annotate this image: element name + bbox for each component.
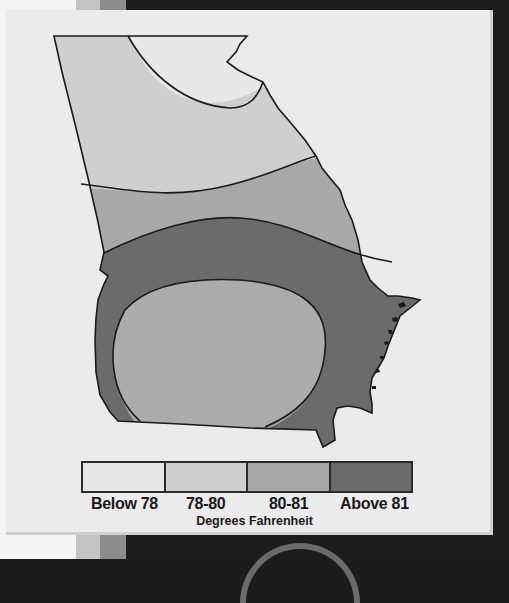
legend-label-80-81: 80-81 [269, 495, 308, 513]
legend-swatch-above-81 [331, 463, 412, 491]
legend-bar [81, 461, 413, 493]
legend-label-above-81: Above 81 [340, 495, 409, 513]
legend-swatch-80-81 [248, 463, 331, 491]
legend-units: Degrees Fahrenheit [0, 514, 509, 528]
legend-swatch-below-78 [83, 463, 166, 491]
legend-swatch-78-80 [166, 463, 249, 491]
legend-label-78-80: 78-80 [186, 495, 225, 513]
zone-80-81-oval [113, 280, 325, 430]
legend-label-below-78: Below 78 [91, 495, 158, 513]
